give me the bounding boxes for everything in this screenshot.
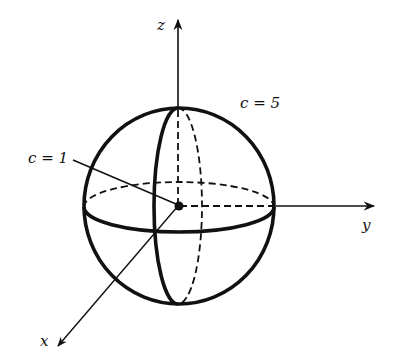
- meridian-front: [154, 108, 178, 304]
- y-axis-label: y: [361, 216, 371, 234]
- center-point: [175, 202, 184, 211]
- z-axis-label: z: [156, 16, 165, 34]
- equator-front: [84, 207, 274, 232]
- x-axis-label: x: [40, 332, 49, 350]
- c5-label: c = 5: [240, 94, 280, 112]
- level-surface-diagram: z y x c = 1 c = 5: [0, 0, 399, 363]
- c1-label: c = 1: [28, 149, 68, 167]
